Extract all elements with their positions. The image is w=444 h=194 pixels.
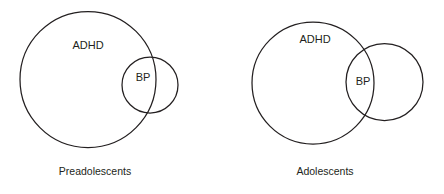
venn-diagram-canvas: ADHD BP Preadolescents ADHD BP Adolescen…	[0, 0, 444, 194]
adolescents-adhd-label: ADHD	[299, 33, 330, 45]
preadolescents-caption: Preadolescents	[59, 165, 131, 177]
preadolescents-bp-circle	[122, 57, 178, 113]
panel-preadolescents: ADHD BP Preadolescents	[20, 12, 178, 177]
preadolescents-bp-label: BP	[136, 71, 151, 83]
venn-figure: ADHD BP Preadolescents ADHD BP Adolescen…	[0, 0, 444, 194]
adolescents-bp-label: BP	[356, 75, 371, 87]
preadolescents-adhd-label: ADHD	[72, 39, 103, 51]
adolescents-caption: Adolescents	[296, 165, 353, 177]
panel-adolescents: ADHD BP Adolescents	[252, 22, 423, 177]
